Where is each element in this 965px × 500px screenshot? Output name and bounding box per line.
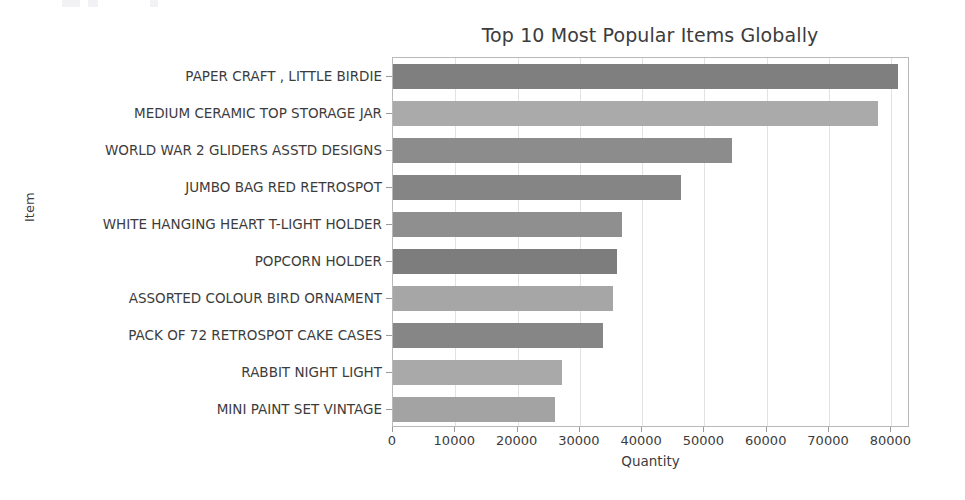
top-edge-artifact-c	[150, 0, 158, 7]
bar	[393, 138, 732, 163]
y-axis-tick-label: MINI PAINT SET VINTAGE	[2, 402, 382, 416]
bar	[393, 249, 617, 274]
top-edge-artifact-a	[62, 0, 80, 7]
bar	[393, 397, 555, 422]
x-axis-tick-mark	[517, 427, 518, 432]
bar	[393, 101, 878, 126]
y-axis-tick-label: JUMBO BAG RED RETROSPOT	[2, 180, 382, 194]
gridline	[891, 58, 892, 426]
x-axis-tick-mark	[766, 427, 767, 432]
x-axis-tick-label: 70000	[807, 433, 848, 448]
bar	[393, 64, 898, 89]
y-axis-tick-label: RABBIT NIGHT LIGHT	[2, 365, 382, 379]
y-axis-tick-label: PAPER CRAFT , LITTLE BIRDIE	[2, 69, 382, 83]
bar	[393, 175, 681, 200]
y-axis-tick-label: MEDIUM CERAMIC TOP STORAGE JAR	[2, 106, 382, 120]
y-axis-tick-label: WORLD WAR 2 GLIDERS ASSTD DESIGNS	[2, 143, 382, 157]
x-axis-tick-label: 80000	[870, 433, 911, 448]
bar	[393, 323, 603, 348]
x-axis-tick-label: 0	[388, 433, 396, 448]
x-axis-tick-mark	[641, 427, 642, 432]
bar	[393, 360, 562, 385]
y-axis-tick-label: ASSORTED COLOUR BIRD ORNAMENT	[2, 291, 382, 305]
x-axis-tick-mark	[828, 427, 829, 432]
chart-title: Top 10 Most Popular Items Globally	[392, 24, 908, 46]
x-axis-tick-label: 10000	[434, 433, 475, 448]
y-axis-tick-label: PACK OF 72 RETROSPOT CAKE CASES	[2, 328, 382, 342]
plot-area	[392, 57, 909, 427]
x-axis-tick-mark	[454, 427, 455, 432]
x-axis-tick-label: 60000	[745, 433, 786, 448]
x-axis-tick-label: 30000	[558, 433, 599, 448]
bar-chart-figure: Top 10 Most Popular Items Globally Item …	[0, 0, 965, 500]
bar	[393, 286, 613, 311]
x-axis-tick-label: 40000	[620, 433, 661, 448]
x-axis-tick-mark	[703, 427, 704, 432]
x-axis-tick-label: 50000	[683, 433, 724, 448]
x-axis-tick-label: 20000	[496, 433, 537, 448]
x-axis-tick-mark	[890, 427, 891, 432]
y-axis-tick-label: WHITE HANGING HEART T-LIGHT HOLDER	[2, 217, 382, 231]
x-axis-tick-mark	[392, 427, 393, 432]
x-axis-label: Quantity	[392, 453, 909, 469]
bar	[393, 212, 622, 237]
x-axis-tick-mark	[579, 427, 580, 432]
y-axis-tick-label: POPCORN HOLDER	[2, 254, 382, 268]
top-edge-artifact-b	[88, 0, 98, 7]
